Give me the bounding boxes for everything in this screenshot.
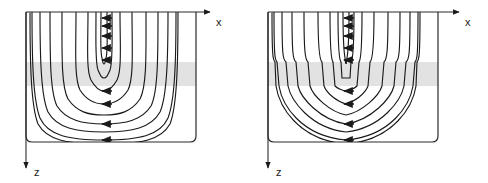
left-panel: x z [0,0,244,183]
x-axis-label: x [465,16,471,28]
figure-container: x z [0,0,488,183]
streamline [101,12,104,64]
streamline [346,12,349,64]
streamline [104,12,107,64]
z-axis-label: z [276,166,282,178]
right-panel: x z [244,0,488,183]
x-axis-label: x [216,16,222,28]
right-panel-canvas: x z [244,0,488,183]
left-panel-canvas: x z [0,0,244,183]
z-axis-label: z [34,166,40,178]
conductive-layer-band [268,62,438,86]
streamline [343,12,346,64]
